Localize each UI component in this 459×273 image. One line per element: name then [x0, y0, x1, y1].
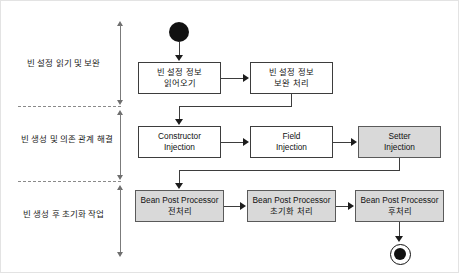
edge-n2-to-n3-seg-down2	[179, 106, 180, 120]
node-read-bean-config[interactable]: 빈 설정 정보 읽어오기	[138, 62, 221, 94]
node-bpp-after-init-line1: Bean Post Processor	[361, 195, 439, 206]
edge-n2-to-n3-seg-down1	[291, 94, 292, 106]
node-constructor-injection-line2: Injection	[164, 142, 195, 153]
edge-start-to-n1-stem	[179, 42, 180, 56]
lane-extent-1-line	[120, 25, 121, 101]
lane-extent-3-line	[120, 189, 121, 253]
edge-n3-to-n4-arrowhead	[243, 138, 249, 146]
edge-n2-to-n3-arrowhead	[175, 119, 183, 125]
edge-n8-to-end-arrowhead	[395, 236, 403, 242]
node-setter-injection-line2: Injection	[384, 142, 415, 153]
lane-divider-1	[18, 106, 121, 107]
node-constructor-injection[interactable]: Constructor Injection	[138, 126, 221, 158]
node-supplement-bean-config-line2: 보완 처리	[274, 78, 308, 89]
lane-extent-2-bottom-arrow	[117, 175, 123, 180]
diagram-canvas: 빈 설정 읽기 및 보완 빈 생성 및 의존 관계 해결 빈 생성 후 초기화 …	[0, 0, 459, 273]
edge-n1-to-n2-line	[221, 78, 243, 79]
node-bpp-init[interactable]: Bean Post Processor 초기화 처리	[247, 190, 336, 222]
node-setter-injection[interactable]: Setter Injection	[358, 126, 441, 158]
node-field-injection[interactable]: Field Injection	[250, 126, 333, 158]
lane-extent-1-bottom-arrow	[117, 100, 123, 105]
node-bpp-after-init-line2: 후처리	[388, 206, 412, 217]
node-read-bean-config-line2: 읽어오기	[164, 78, 196, 89]
edge-n5-to-n6-seg-down1	[399, 158, 400, 170]
edge-n8-to-end-line	[399, 222, 400, 237]
lane-extent-3-bottom-arrow	[117, 252, 123, 257]
edge-n5-to-n6-seg-left	[179, 170, 400, 171]
node-bpp-before-init[interactable]: Bean Post Processor 전처리	[135, 190, 224, 222]
lane-label-1: 빈 설정 읽기 및 보완	[27, 56, 115, 68]
lane-label-2: 빈 생성 및 의존 관계 해결	[21, 132, 121, 144]
edge-n3-to-n4-line	[221, 142, 243, 143]
edge-n2-to-n3-seg-left	[179, 106, 292, 107]
node-bpp-before-init-line2: 전처리	[168, 206, 192, 217]
lane-divider-2	[18, 181, 121, 182]
edge-n5-to-n6-seg-down2	[179, 170, 180, 184]
node-field-injection-line2: Injection	[276, 142, 307, 153]
edge-n5-to-n6-arrowhead	[175, 183, 183, 189]
node-setter-injection-line1: Setter	[388, 131, 410, 142]
node-bpp-init-line2: 초기화 처리	[270, 206, 312, 217]
edge-n7-to-n8-line	[336, 206, 348, 207]
edge-n4-to-n5-arrowhead	[351, 138, 357, 146]
lane-extent-2-line	[120, 114, 121, 176]
end-node-core	[394, 248, 406, 260]
node-bpp-init-line1: Bean Post Processor	[253, 195, 331, 206]
edge-n4-to-n5-line	[333, 142, 351, 143]
node-bpp-after-init[interactable]: Bean Post Processor 후처리	[355, 190, 444, 222]
node-supplement-bean-config[interactable]: 빈 설정 정보 보완 처리	[250, 62, 333, 94]
edge-n1-to-n2-arrowhead	[243, 74, 249, 82]
lane-label-3: 빈 생성 후 초기화 작업	[23, 207, 119, 219]
node-constructor-injection-line1: Constructor	[158, 131, 201, 142]
node-field-injection-line1: Field	[283, 131, 301, 142]
node-supplement-bean-config-line1: 빈 설정 정보	[269, 67, 314, 78]
node-read-bean-config-line1: 빈 설정 정보	[157, 67, 202, 78]
edge-n6-to-n7-line	[224, 206, 240, 207]
edge-n7-to-n8-arrowhead	[348, 202, 354, 210]
edge-start-to-n1-arrowhead	[175, 55, 183, 61]
edge-n6-to-n7-arrowhead	[240, 202, 246, 210]
node-bpp-before-init-line1: Bean Post Processor	[141, 195, 219, 206]
start-node	[169, 22, 189, 42]
